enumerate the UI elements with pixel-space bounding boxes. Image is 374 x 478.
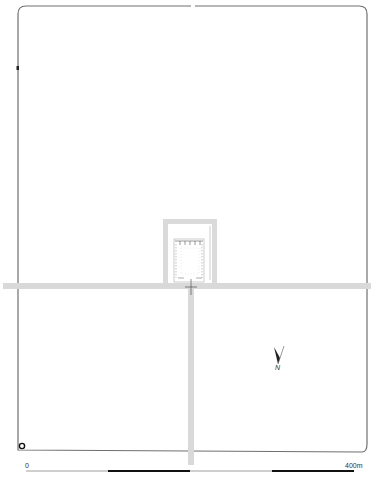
temple-building [174,239,204,282]
east-west-road [3,283,371,289]
scale-bar [26,470,354,472]
scale-end-label: 400m [345,462,363,469]
site-plan [0,0,374,478]
north-arrow-icon [274,346,284,364]
north-south-road [188,289,194,465]
wall-marker [17,66,20,70]
junction-cross [185,279,197,295]
north-label: N [275,364,280,371]
temple-enclosure [163,219,217,284]
scale-start-label: 0 [25,462,29,469]
corner-tower [19,443,24,448]
